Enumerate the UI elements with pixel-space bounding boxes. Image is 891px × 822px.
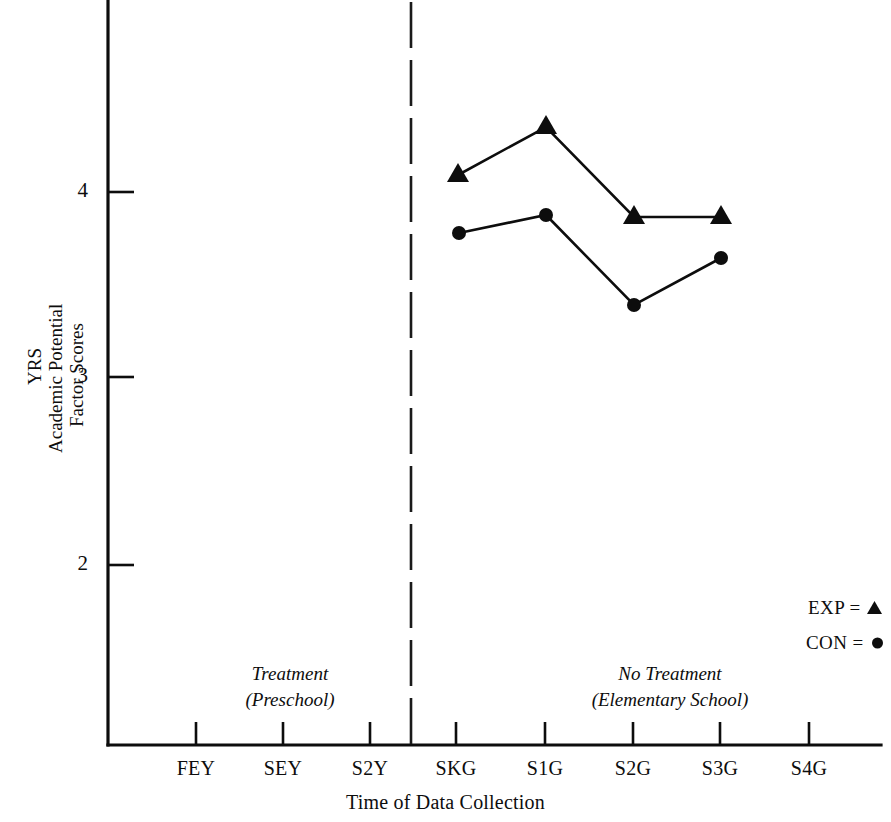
y-axis-title-line-3: Factor Scores bbox=[66, 323, 88, 427]
legend-label-exp: EXP bbox=[808, 597, 844, 618]
legend-equals-con: = bbox=[852, 632, 863, 653]
x-tick-marks bbox=[196, 722, 809, 745]
triangle-icon bbox=[866, 598, 883, 620]
series-markers-exp bbox=[447, 115, 732, 224]
legend-item-con: CON = bbox=[806, 632, 886, 656]
y-axis-title-line-1: YRS bbox=[24, 348, 46, 385]
chart-figure: 4 3 2 YRS Academic Potential Factor Scor… bbox=[0, 0, 891, 822]
series-line-con bbox=[459, 215, 721, 305]
annotation-no-treatment-line1: No Treatment bbox=[520, 661, 820, 687]
x-tick-label-s2y: S2Y bbox=[325, 757, 415, 779]
x-tick-label-sey: SEY bbox=[238, 757, 328, 779]
annotation-no-treatment-line2: (Elementary School) bbox=[520, 687, 820, 713]
annotation-no-treatment-phase: No Treatment (Elementary School) bbox=[520, 661, 820, 712]
x-tick-label-s4g: S4G bbox=[764, 757, 854, 779]
x-axis-title: Time of Data Collection bbox=[0, 791, 891, 813]
annotation-treatment-line2: (Preschool) bbox=[160, 687, 420, 713]
x-tick-label-skg: SKG bbox=[411, 757, 501, 779]
legend-item-exp: EXP = bbox=[808, 597, 883, 621]
x-tick-label-fey: FEY bbox=[151, 757, 241, 779]
circle-icon bbox=[869, 633, 886, 655]
x-tick-label-s2g: S2G bbox=[588, 757, 678, 779]
annotation-treatment-phase: Treatment (Preschool) bbox=[160, 661, 420, 712]
x-tick-label-s3g: S3G bbox=[675, 757, 765, 779]
legend-label-con: CON bbox=[806, 632, 847, 653]
y-axis-title-line-2: Academic Potential bbox=[45, 304, 67, 453]
legend-equals-exp: = bbox=[850, 597, 861, 618]
y-axis-title: YRS Academic Potential Factor Scores bbox=[0, 0, 74, 822]
y-tick-marks bbox=[108, 192, 134, 565]
series-line-exp bbox=[458, 127, 721, 217]
x-tick-label-s1g: S1G bbox=[500, 757, 590, 779]
annotation-treatment-line1: Treatment bbox=[160, 661, 420, 687]
